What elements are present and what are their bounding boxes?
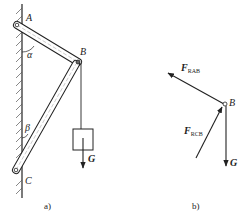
figure-b: FRAB FRCB G B b) <box>168 62 238 211</box>
label-f-rcb: FRCB <box>183 125 203 137</box>
label-b-fbd: B <box>229 97 235 108</box>
point-b <box>223 102 227 106</box>
label-f-rab: FRAB <box>180 62 200 74</box>
bar-cb <box>16 64 76 170</box>
beta-arc <box>22 134 28 138</box>
label-beta: β <box>24 122 30 133</box>
label-c: C <box>25 175 32 186</box>
figure-a: A B C α β G a) <box>14 4 96 211</box>
label-alpha: α <box>27 49 33 60</box>
caption-a: a) <box>44 201 51 211</box>
pin-a <box>15 23 19 27</box>
force-rab-arrow <box>168 73 224 104</box>
statics-diagram: A B C α β G a) FRAB FRCB G B b) <box>0 0 243 218</box>
label-a: A <box>25 12 33 23</box>
pin-b <box>76 60 80 64</box>
label-g-b: G <box>230 157 238 168</box>
caption-b: b) <box>192 201 200 211</box>
label-b: B <box>80 46 86 57</box>
label-g-a: G <box>88 153 96 164</box>
pin-c <box>14 168 18 172</box>
